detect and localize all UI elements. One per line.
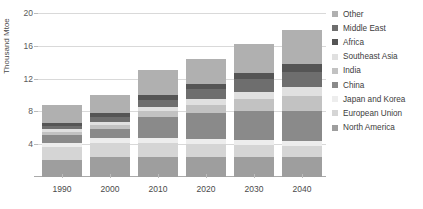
bar-segment[interactable]: [186, 59, 226, 84]
legend-label: Middle East: [343, 24, 386, 33]
x-tick-mark: [110, 174, 111, 178]
x-tick-label: 2000: [90, 184, 130, 194]
bar-series-group: [38, 13, 326, 177]
legend-swatch-icon: [332, 96, 338, 102]
x-tick: 2040: [282, 178, 322, 204]
bar-segment[interactable]: [138, 117, 178, 138]
y-tick-label: 20: [24, 8, 33, 18]
legend-item[interactable]: European Union: [332, 106, 423, 120]
legend-swatch-icon: [332, 25, 338, 31]
y-tick-label: 8: [28, 106, 33, 116]
legend-swatch-icon: [332, 68, 338, 74]
bar-stack[interactable]: [186, 13, 226, 177]
y-axis-title: Thousand Mtoe: [2, 6, 11, 86]
bar-segment[interactable]: [138, 100, 178, 107]
bar-segment[interactable]: [282, 146, 322, 157]
bar-segment[interactable]: [282, 30, 322, 64]
x-tick-label: 2040: [282, 184, 322, 194]
x-tick-label: 2010: [138, 184, 178, 194]
legend-item[interactable]: Southeast Asia: [332, 50, 423, 64]
bar-stack[interactable]: [90, 13, 130, 177]
legend-item[interactable]: India: [332, 64, 423, 78]
bar-segment[interactable]: [42, 135, 82, 142]
bar-segment[interactable]: [282, 111, 322, 141]
y-tick-label: 16: [24, 41, 33, 51]
bar-segment[interactable]: [234, 111, 274, 141]
bar-segment[interactable]: [282, 96, 322, 111]
x-tick-mark: [62, 174, 63, 178]
legend-item[interactable]: Middle East: [332, 21, 423, 35]
bar-segment[interactable]: [234, 44, 274, 73]
x-tick-label: 2030: [234, 184, 274, 194]
legend-swatch-icon: [332, 39, 338, 45]
legend-label: Other: [343, 10, 363, 19]
legend-swatch-icon: [332, 110, 338, 116]
bar-segment[interactable]: [42, 105, 82, 123]
bar-segment[interactable]: [186, 89, 226, 99]
bar-segment[interactable]: [186, 105, 226, 113]
legend-swatch-icon: [332, 11, 338, 17]
bar-segment[interactable]: [90, 143, 130, 157]
bar-segment[interactable]: [138, 143, 178, 157]
legend-item[interactable]: North America: [332, 121, 423, 135]
y-tick-label: 4: [28, 139, 33, 149]
x-tick: 1990: [42, 178, 82, 204]
bar-segment[interactable]: [90, 129, 130, 138]
x-tick-mark: [254, 174, 255, 178]
legend-swatch-icon: [332, 54, 338, 60]
y-tick-label: 12: [24, 74, 33, 84]
legend-swatch-icon: [332, 82, 338, 88]
legend-label: European Union: [343, 109, 402, 118]
legend-label: Japan and Korea: [343, 95, 405, 104]
x-axis: 199020002010202020302040: [38, 178, 326, 204]
chart-root: Thousand Mtoe 48121620 19902000201020202…: [0, 0, 423, 209]
bar-segment[interactable]: [42, 147, 82, 160]
legend-item[interactable]: Other: [332, 7, 423, 21]
bar-segment[interactable]: [138, 70, 178, 95]
x-tick: 2020: [186, 178, 226, 204]
chart-legend: OtherMiddle EastAfricaSoutheast AsiaIndi…: [332, 7, 423, 135]
x-tick: 2010: [138, 178, 178, 204]
bar-stack[interactable]: [42, 13, 82, 177]
x-tick: 2030: [234, 178, 274, 204]
legend-label: Africa: [343, 38, 364, 47]
x-tick-label: 1990: [42, 184, 82, 194]
bar-stack[interactable]: [282, 13, 322, 177]
bar-segment[interactable]: [90, 95, 130, 113]
legend-label: India: [343, 66, 361, 75]
bar-segment[interactable]: [186, 144, 226, 157]
legend-swatch-icon: [332, 125, 338, 131]
bar-segment[interactable]: [282, 64, 322, 72]
bar-segment[interactable]: [234, 145, 274, 157]
legend-item[interactable]: China: [332, 78, 423, 92]
bar-segment[interactable]: [234, 79, 274, 91]
bar-segment[interactable]: [186, 113, 226, 139]
x-tick-mark: [158, 174, 159, 178]
legend-label: China: [343, 81, 364, 90]
legend-item[interactable]: Africa: [332, 35, 423, 49]
legend-label: North America: [343, 123, 395, 132]
plot-area: 48121620: [38, 13, 326, 177]
x-tick-mark: [206, 174, 207, 178]
x-tick-label: 2020: [186, 184, 226, 194]
x-tick: 2000: [90, 178, 130, 204]
legend-label: Southeast Asia: [343, 52, 398, 61]
bar-stack[interactable]: [138, 13, 178, 177]
bar-stack[interactable]: [234, 13, 274, 177]
bar-segment[interactable]: [234, 99, 274, 110]
bar-segment[interactable]: [234, 92, 274, 99]
bar-segment[interactable]: [282, 72, 322, 87]
legend-item[interactable]: Japan and Korea: [332, 92, 423, 106]
x-tick-mark: [302, 174, 303, 178]
bar-segment[interactable]: [282, 87, 322, 96]
